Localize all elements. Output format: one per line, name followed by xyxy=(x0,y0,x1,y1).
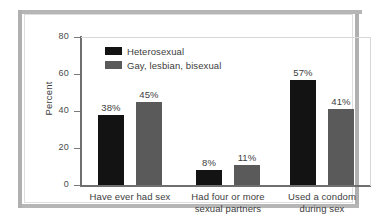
y-tick-label: 40 xyxy=(39,105,69,115)
y-tick: 20 xyxy=(39,142,74,153)
bar: 8% xyxy=(196,170,222,185)
legend-item: Heterosexual xyxy=(105,45,221,57)
bar-value-label: 11% xyxy=(238,152,257,163)
legend-swatch xyxy=(105,47,122,55)
bar-value-label: 38% xyxy=(101,102,120,113)
y-tick-label: 0 xyxy=(39,179,69,189)
legend-label: Gay, lesbian, bisexual xyxy=(127,60,221,71)
legend-swatch xyxy=(105,61,122,69)
chart-legend: HeterosexualGay, lesbian, bisexual xyxy=(105,45,221,73)
bar-value-label: 57% xyxy=(293,67,312,78)
y-tick-label: 60 xyxy=(39,68,69,78)
x-axis-category-line: Used a condom xyxy=(262,191,378,203)
bar: 57% xyxy=(290,80,316,185)
bar: 11% xyxy=(234,165,260,185)
bar: 41% xyxy=(328,109,354,185)
bar-value-label: 41% xyxy=(331,96,350,107)
y-tick: 40 xyxy=(39,105,74,116)
legend-label: Heterosexual xyxy=(127,46,184,57)
x-axis-category-line: during sex xyxy=(262,203,378,215)
y-tick: 60 xyxy=(39,68,74,79)
frame-rule-left xyxy=(18,10,22,208)
x-axis-category-label: Used a condomduring sex xyxy=(262,191,378,214)
bar-slot: 41% xyxy=(328,37,354,185)
bar: 38% xyxy=(98,115,124,185)
y-tick: 0 xyxy=(39,179,74,190)
chart-plate: Percent 020406080 38%45%8%11%57%41% Hete… xyxy=(24,14,353,203)
bar-slot: 11% xyxy=(234,37,260,185)
bar-slot: 57% xyxy=(290,37,316,185)
y-tick-label: 20 xyxy=(39,142,69,152)
figure-container: Percent 020406080 38%45%8%11%57%41% Hete… xyxy=(0,0,378,220)
bar-value-label: 8% xyxy=(202,157,216,168)
y-tick: 80 xyxy=(39,31,74,42)
y-tick-label: 80 xyxy=(39,31,69,41)
bar: 45% xyxy=(136,102,162,185)
legend-item: Gay, lesbian, bisexual xyxy=(105,59,221,71)
bar-value-label: 45% xyxy=(139,89,158,100)
